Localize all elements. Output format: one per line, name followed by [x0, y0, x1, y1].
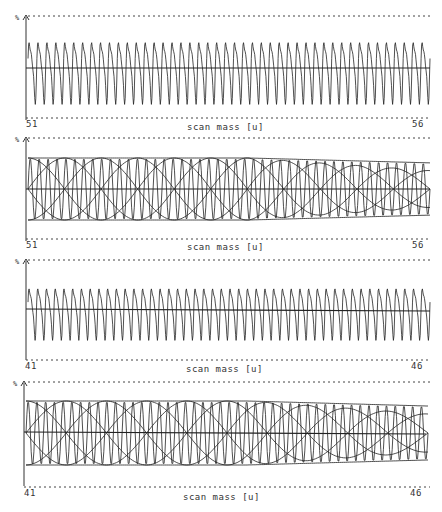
x-axis-title: scan mass [u]: [187, 242, 264, 252]
panel-3-signal: % 41 scan mass [u] 46: [0, 256, 442, 376]
x-start-label: 51: [26, 240, 38, 250]
y-axis-label: %: [15, 136, 20, 144]
x-start-label: 41: [25, 361, 37, 371]
x-axis-title: scan mass [u]: [183, 492, 260, 502]
panel-1-plot: [0, 0, 442, 130]
panel-1-signal: % 51 scan mass [u] 56: [0, 0, 442, 130]
panel-2-envelope: % 51 scan mass [u] 56: [0, 128, 442, 256]
y-axis-label: %: [13, 380, 18, 388]
x-end-label: 56: [412, 240, 424, 250]
panel-4-envelope: % 41 scan mass [u] 46: [0, 376, 442, 512]
panel-3-plot: [0, 256, 442, 376]
x-start-label: 41: [24, 488, 36, 498]
y-axis-label: %: [15, 14, 20, 22]
x-axis-title: scan mass [u]: [186, 364, 263, 374]
y-axis-label: %: [15, 258, 20, 266]
x-end-label: 46: [411, 361, 423, 371]
panel-2-plot: [0, 128, 442, 256]
x-end-label: 46: [410, 488, 422, 498]
